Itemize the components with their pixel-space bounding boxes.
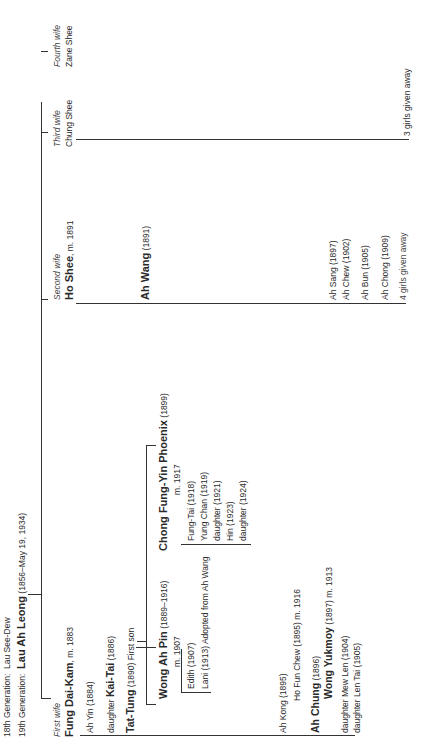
spouse-name: Chong Fung-Yin Phoenix [157, 420, 169, 551]
child-mew-len: daughter Mew Len (1904) [340, 636, 351, 733]
child-edith: Edith (1907) [186, 643, 197, 689]
child-note: (1890) First son [126, 628, 136, 690]
wife-name: Fung Dai-Kam, m. 1883 [64, 627, 76, 737]
tat-tung-wife-tick [146, 704, 156, 705]
third-wife-girls-given-away: 3 girls given away [402, 68, 413, 136]
wong-children-stem [181, 692, 211, 693]
wife-note: , m. 1891 [65, 221, 75, 256]
child-yung-chan: Yung Chan (1919) [199, 472, 210, 541]
wife-note: , m. 1883 [65, 627, 75, 662]
spouse-dates: (1889–1916) [159, 581, 169, 632]
wife-name-text: Ho Shee [63, 256, 75, 300]
child-ah-chew: Ah Chew (1902) [341, 239, 352, 300]
wong-ah-pin: Wong Ah Pin (1889–1916) [158, 581, 170, 699]
child-prefix: daughter [106, 697, 116, 733]
wife-name: Zane Shee [64, 25, 75, 67]
wong-children-line [181, 649, 182, 693]
child-ah-yin: Ah Yin (1884) [85, 681, 96, 733]
wife-tick [41, 132, 48, 133]
generation-19-label: 19th Generation: [17, 674, 27, 737]
child-kai-tai: daughter Kai-Tai (1886) [105, 636, 117, 733]
wife-tick [41, 698, 51, 699]
wife-order-label: First wife [52, 703, 63, 737]
child-daughter-1924: daughter (1924) [238, 481, 249, 542]
wives-trunk-line [41, 102, 42, 699]
child-note: (1886) [106, 636, 116, 663]
child-note: (1895) [278, 673, 288, 700]
tat-tung-wife-tick [146, 445, 156, 446]
generation-18-name: Lau See-Dew [2, 617, 12, 669]
child-name: Tat-Tung [124, 690, 136, 733]
child-prefix: daughter [340, 697, 350, 733]
connector-line [28, 594, 42, 595]
generation-19-line: 19th Generation: Lau Ah Leong (1856–May … [16, 513, 28, 737]
third-wife-children-line [76, 139, 409, 140]
wife-name: Ho Shee, m. 1891 [64, 221, 76, 300]
family-tree-diagram: 18th Generation: Lau See-Dew 19th Genera… [0, 0, 437, 737]
generation-19-name: Lau Ah Leong [15, 596, 27, 669]
child-prefix: daughter [352, 697, 362, 733]
child-ah-chung: Ah Chung (1896) [310, 656, 322, 733]
child-ah-chong: Ah Chong (1909) [380, 235, 391, 300]
child-note: (1904) [340, 636, 350, 663]
ah-chung-spouse: Wong Yukmoy (1897) m. 1913 [323, 567, 335, 699]
child-tat-tung: Tat-Tung (1890) First son [125, 628, 137, 733]
wife-tick [41, 51, 48, 52]
wife-order-label: Third wife [52, 110, 63, 147]
child-note: (1905) [352, 643, 362, 670]
chong-fung-yin-phoenix: Chong Fung-Yin Phoenix (1899) [158, 393, 170, 551]
generation-18-label: 18th Generation: [2, 674, 12, 737]
wife-order-label: Second wife [52, 254, 63, 300]
chong-married: m. 1917 [172, 464, 183, 495]
child-name: Kai-Tai [104, 663, 116, 697]
wife-name: Chung Shee [64, 100, 75, 147]
second-wife-girls-given-away: 4 girls given away [398, 232, 409, 300]
child-fung-tai: Fung-Tai (1918) [186, 481, 197, 541]
child-note: (1891) [141, 226, 151, 253]
child-name: Ah Kong [278, 700, 288, 733]
spouse-note: (1897) m. 1913 [324, 567, 334, 627]
wife-order-label: Fourth wife [52, 25, 63, 67]
child-len-tai: daughter Len Tai (1905) [352, 643, 363, 733]
second-wife-children-line [76, 303, 406, 304]
child-name: Ah Chung [309, 683, 321, 733]
child-ah-sang: Ah Sang (1897) [328, 240, 339, 300]
spouse-name: Wong Ah Pin [157, 631, 169, 699]
child-daughter-1921: daughter (1921) [212, 481, 223, 542]
tat-tung-wives-span [146, 445, 147, 705]
generation-19-dates: (1856–May 19, 1934) [17, 513, 27, 594]
spouse-dates: (1899) [159, 393, 169, 420]
child-ah-bun: Ah Bun (1905) [360, 245, 371, 300]
spouse-name: Wong Yukmoy [322, 627, 334, 699]
child-name: Ah Wang [139, 253, 151, 300]
child-note: (1896) [311, 656, 321, 683]
wife-tick [41, 299, 48, 300]
child-ah-wang: Ah Wang (1891) [140, 226, 152, 300]
wife-name-text: Fung Dai-Kam [63, 662, 75, 737]
ah-kong-spouse: Ho Fun Chew (1895) m. 1916 [292, 589, 303, 701]
generation-18-line: 18th Generation: Lau See-Dew [2, 617, 13, 737]
child-ah-kong: Ah Kong (1895) [278, 673, 289, 733]
child-name: Mew Len [340, 663, 350, 698]
chong-children-stem [181, 544, 251, 545]
child-name: Len Tai [352, 670, 362, 697]
child-lani: Lani (1913) Adopted from Ah Wang [200, 557, 211, 689]
child-note: (1884) [85, 681, 95, 708]
child-name: Ah Yin [85, 708, 95, 733]
child-hin: Hin (1923) [225, 501, 236, 541]
first-wife-children-line [80, 735, 355, 736]
